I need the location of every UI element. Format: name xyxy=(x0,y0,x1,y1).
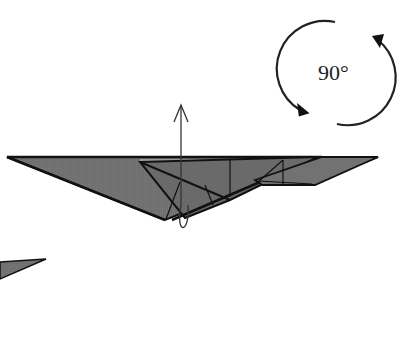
rotation-label: 90° xyxy=(318,60,349,85)
partial-paper-flap xyxy=(0,259,46,279)
origami-diagram: 90° xyxy=(0,0,417,337)
folded-paper-model xyxy=(7,157,378,220)
